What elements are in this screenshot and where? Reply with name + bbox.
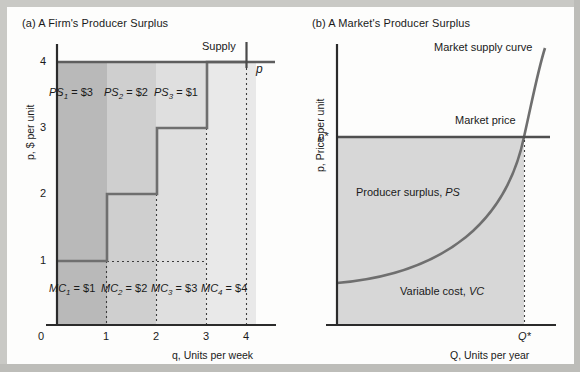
panel-a-x-axis-label: q, Units per week [172,349,253,361]
market-price-label: Market price [455,114,516,126]
panel-a-xtick-0: 0 [38,330,44,342]
panel-a-ytick-1: 1 [40,254,46,266]
ps-label-1: PS1 = $3 [49,86,93,101]
panel-a-xtick-4: 4 [243,330,249,342]
ps-label-2: PS2 = $2 [104,86,148,101]
panel-a-ytick-4: 4 [40,55,46,67]
panel-a-xtick-2: 2 [153,330,159,342]
panel-a-xtick-1: 1 [103,330,109,342]
figure-producer-surplus: (a) A Firm's Producer Surplus p, $ per u… [0,0,580,372]
panel-a-ytick-3: 3 [40,121,46,133]
mc-label-4: MC4 = $4 [201,282,247,297]
panel-b: (b) A Market's Producer Surplus p, Price… [290,0,580,372]
panel-b-xtick-q-star: Q* [518,330,531,342]
supply-label: Supply [202,40,236,52]
panel-a-xtick-3: 3 [203,330,209,342]
panel-a-ytick-2: 2 [40,187,46,199]
panel-b-x-axis-label: Q, Units per year [450,349,529,361]
variable-cost-region-label: Variable cost, VC [400,285,484,297]
panel-a: (a) A Firm's Producer Surplus p, $ per u… [0,0,290,372]
price-axis-label: p [256,62,263,76]
producer-surplus-region-label: Producer surplus, PS [356,186,460,198]
market-supply-curve-label: Market supply curve [434,41,532,53]
ps-label-3: PS3 = $1 [154,86,198,101]
panel-b-ytick-p-star: p* [318,130,328,142]
mc-label-2: MC2 = $2 [101,282,147,297]
mc-label-3: MC3 = $3 [151,282,197,297]
mc-label-1: MC1 = $1 [49,282,95,297]
